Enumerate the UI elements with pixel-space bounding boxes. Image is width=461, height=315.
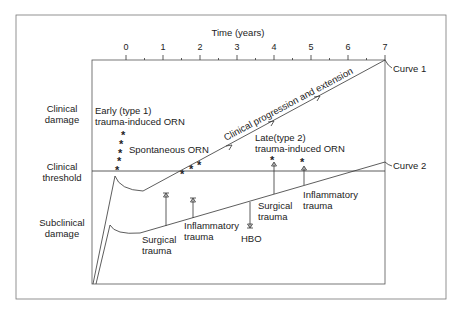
surgical-trauma-1-label-2: trauma — [142, 245, 172, 256]
inflammatory-trauma-2-label-1: Inflammatory — [303, 189, 358, 200]
early-orn-label-2: trauma-induced ORN — [95, 116, 185, 127]
late-orn-label-1: Late(type 2) — [255, 132, 306, 143]
curve-1 — [93, 60, 385, 284]
curve-2-leader — [385, 162, 392, 166]
label-clinical-threshold-1: Clinical — [47, 161, 78, 172]
spontaneous-orn-label: Spontaneous ORN — [129, 144, 209, 155]
orn-diagram: Time (years) 0 1 2 3 4 5 6 7 Clinical da… — [0, 0, 461, 315]
asterisk-icon: * — [115, 164, 120, 176]
early-orn-stars: * * * * * — [115, 129, 126, 176]
axis-ticks: 0 1 2 3 4 5 6 7 — [123, 42, 387, 60]
label-subclinical-damage-2: damage — [45, 228, 79, 239]
late-orn-label-2: trauma-induced ORN — [255, 143, 345, 154]
surgical-trauma-2-label-1: Surgical — [258, 200, 292, 211]
asterisk-icon: * — [180, 168, 185, 180]
curve-1-label: Curve 1 — [393, 63, 426, 74]
tick-label: 0 — [123, 42, 128, 52]
inflammatory-trauma-1-label-1: Inflammatory — [184, 220, 239, 231]
label-subclinical-damage-1: Subclinical — [39, 217, 84, 228]
asterisk-icon: * — [189, 163, 194, 175]
spontaneous-stars: * * * — [180, 159, 202, 180]
tick-label: 4 — [271, 42, 276, 52]
label-clinical-damage-1: Clinical — [47, 103, 78, 114]
tick-label: 3 — [234, 42, 239, 52]
inflammatory-trauma-2-label-2: trauma — [303, 200, 333, 211]
surgical-trauma-1-label-1: Surgical — [142, 234, 176, 245]
outer-frame — [16, 15, 446, 299]
inflammatory-trauma-1-label-2: trauma — [184, 231, 214, 242]
hbo-label: HBO — [241, 233, 262, 244]
label-clinical-threshold-2: threshold — [42, 172, 81, 183]
curve-1-leader — [385, 60, 392, 68]
surgical-trauma-2-label-2: trauma — [258, 211, 288, 222]
early-orn-label-1: Early (type 1) — [95, 105, 152, 116]
plot-frame — [92, 60, 385, 284]
label-clinical-damage-2: damage — [45, 114, 79, 125]
axis-title: Time (years) — [212, 27, 265, 38]
curve-2 — [96, 162, 385, 284]
tick-label: 6 — [345, 42, 350, 52]
tick-label: 2 — [197, 42, 202, 52]
tick-label: 7 — [382, 42, 387, 52]
curve-2-label: Curve 2 — [393, 160, 426, 171]
tick-label: 5 — [308, 42, 313, 52]
tick-label: 1 — [160, 42, 165, 52]
asterisk-icon: * — [197, 159, 202, 171]
